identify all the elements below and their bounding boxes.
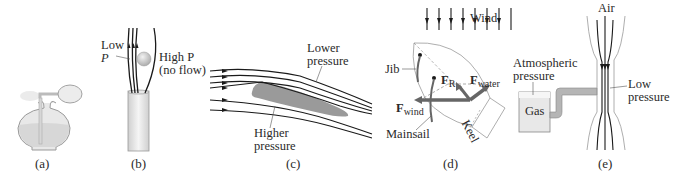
label-higher-pressure: Higherpressure <box>254 127 296 153</box>
jib-sail <box>417 56 420 82</box>
caption-d: (d) <box>443 156 458 172</box>
label-jib: Jib <box>385 63 400 76</box>
squeeze-bulb <box>58 85 82 103</box>
label-gas: Gas <box>525 105 544 118</box>
diagram-canvas <box>0 0 677 179</box>
spray-mist <box>20 91 40 101</box>
caption-c: (c) <box>286 156 300 172</box>
f-r-arrow <box>459 86 470 100</box>
caption-b: (b) <box>131 156 146 172</box>
panel-a-atomizer <box>18 85 82 150</box>
tube <box>128 91 149 151</box>
label-mainsail: Mainsail <box>386 128 430 141</box>
panel-e-venturi <box>519 16 627 150</box>
label-wind: Wind <box>470 12 497 25</box>
ball <box>137 52 151 66</box>
label-high-p: High P(no flow) <box>159 51 206 77</box>
label-air: Air <box>598 2 615 15</box>
label-lower-pressure: Lowerpressure <box>307 42 349 68</box>
label-f-water: Fwater <box>470 74 500 90</box>
gas-pipe <box>550 88 597 118</box>
caption-e: (e) <box>598 156 612 172</box>
caption-a: (a) <box>35 156 49 172</box>
label-atmospheric-pressure: Atmosphericpressure <box>513 57 578 83</box>
label-f-r: FR <box>441 74 455 90</box>
liquid <box>19 123 69 147</box>
label-f-wind: Fwind <box>396 102 424 118</box>
label-low-p: LowP <box>101 39 124 65</box>
label-low-pressure: Lowpressure <box>628 78 670 104</box>
dip-tube <box>39 98 42 144</box>
